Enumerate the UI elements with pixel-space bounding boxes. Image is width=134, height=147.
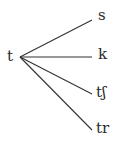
source-phoneme: t	[7, 49, 13, 64]
branch-label-tr: tr	[96, 121, 109, 136]
branch-line-tr	[20, 57, 92, 130]
branch-label-tsh: tʃ	[96, 85, 106, 100]
branch-label-k: k	[98, 47, 107, 62]
branch-line-tsh	[20, 57, 92, 94]
branch-line-s	[20, 20, 92, 57]
branch-lines	[0, 0, 134, 147]
branch-label-s: s	[98, 8, 106, 23]
